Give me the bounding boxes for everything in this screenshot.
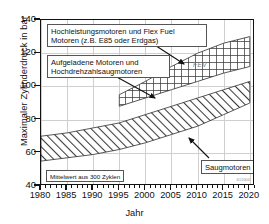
y-tick-label: 140 [0,13,36,24]
cylinder-pressure-chart: Maximaler Zylinderdruck in bar Jahr 4060… [0,0,269,224]
x-minor-tick [176,185,177,188]
x-minor-tick [129,185,130,188]
x-minor-tick [191,185,192,188]
x-minor-tick [113,185,114,188]
fev-watermark: FEV [193,61,207,68]
x-minor-tick [82,185,83,188]
x-minor-tick [61,185,62,188]
x-minor-tick [233,185,234,188]
x-minor-tick [165,185,166,188]
annotation-charged-engines: Aufgeladene Motoren und Hochdrehzahlsaug… [47,55,170,78]
x-minor-tick [124,185,125,188]
x-minor-tick [97,185,98,188]
x-tick-label: 2020 [232,190,266,200]
x-minor-tick [134,185,135,188]
x-minor-tick [150,185,151,188]
x-minor-tick [155,185,156,188]
x-minor-tick [238,185,239,188]
y-tick-label: 60 [0,146,36,157]
x-axis-title: Jahr [0,208,269,218]
x-minor-tick [103,185,104,188]
x-minor-tick [77,185,78,188]
annotation-high-performance-engines: Hochleistungsmotoren und Flex Fuel Motor… [47,24,207,47]
x-minor-tick [181,185,182,188]
x-minor-tick [71,185,72,188]
x-minor-tick [56,185,57,188]
plot-inner: Hochleistungsmotoren und Flex Fuel Motor… [41,20,253,184]
annotation-aspirated-engines: Saugmotoren [201,160,254,174]
y-tick-label: 100 [0,79,36,90]
x-minor-tick [160,185,161,188]
x-minor-tick [244,185,245,188]
x-minor-tick [228,185,229,188]
x-minor-tick [254,185,255,188]
x-minor-tick [50,185,51,188]
x-minor-tick [202,185,203,188]
annotation-mean-value-note: Mittelwert aus 300 Zyklen [46,170,124,182]
y-tick-label: 40 [0,179,36,190]
x-minor-tick [217,185,218,188]
x-minor-tick [108,185,109,188]
source-mark: 612004 [237,178,250,182]
x-minor-tick [207,185,208,188]
y-tick-label: 80 [0,113,36,124]
y-tick-label: 120 [0,46,36,57]
plot-area: Hochleistungsmotoren und Flex Fuel Motor… [40,19,254,185]
x-minor-tick [186,185,187,188]
x-minor-tick [139,185,140,188]
x-minor-tick [212,185,213,188]
x-minor-tick [87,185,88,188]
x-minor-tick [45,185,46,188]
